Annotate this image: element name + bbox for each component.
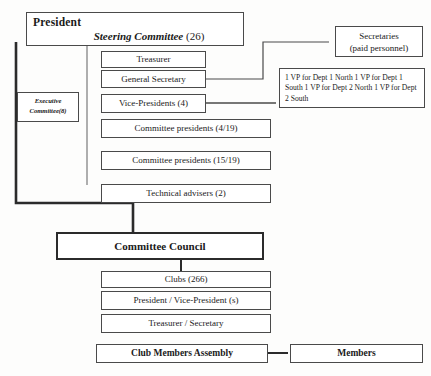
general-secretary-label: General Secretary	[121, 74, 186, 84]
president-label: President	[33, 16, 237, 29]
clubs-label: Clubs (266)	[165, 274, 208, 284]
club-treasurer-secretary-label: Treasurer / Secretary	[148, 318, 223, 328]
technical-advisers-box: Technical advisers (2)	[101, 184, 271, 203]
steering-committee-title: Steering Committee	[94, 30, 184, 42]
executive-committee-line2: Committee(8)	[30, 107, 67, 114]
steering-committee-label: Steering Committee (26)	[33, 30, 237, 43]
committee-presidents-4-19-label: Committee presidents (4/19)	[135, 123, 238, 133]
executive-committee-box: Executive Committee(8)	[17, 92, 79, 122]
treasurer-box: Treasurer	[101, 51, 206, 68]
secretaries-line2: (paid personnel)	[350, 43, 409, 53]
treasurer-label: Treasurer	[136, 54, 170, 64]
vice-presidents-label: Vice-Presidents (4)	[119, 98, 188, 108]
club-treasurer-secretary-box: Treasurer / Secretary	[101, 314, 271, 333]
committee-presidents-15-19-box: Committee presidents (15/19)	[101, 151, 271, 170]
vp-departments-text: 1 VP for Dept 1 North 1 VP for Dept 1 So…	[285, 73, 417, 103]
club-president-vicepresident-box: President / Vice-President (s)	[101, 291, 271, 310]
secretaries-line1: Secretaries	[359, 31, 398, 41]
vp-departments-box: 1 VP for Dept 1 North 1 VP for Dept 1 So…	[279, 68, 425, 108]
steering-committee-count: (26)	[186, 30, 204, 42]
members-label: Members	[337, 348, 376, 359]
committee-council-label: Committee Council	[114, 240, 205, 253]
committee-presidents-4-19-box: Committee presidents (4/19)	[101, 119, 271, 138]
committee-presidents-15-19-label: Committee presidents (15/19)	[132, 155, 239, 165]
members-box: Members	[290, 344, 423, 363]
technical-advisers-label: Technical advisers (2)	[146, 188, 225, 198]
general-secretary-box: General Secretary	[101, 70, 206, 88]
clubs-box: Clubs (266)	[101, 271, 271, 288]
club-president-vicepresident-label: President / Vice-President (s)	[133, 295, 238, 305]
club-members-assembly-box: Club Members Assembly	[96, 344, 268, 363]
club-members-assembly-label: Club Members Assembly	[131, 348, 233, 359]
org-chart-diagram: President Steering Committee (26) Execut…	[0, 0, 431, 376]
committee-council-box: Committee Council	[56, 232, 264, 260]
executive-committee-line1: Executive	[35, 97, 62, 104]
president-steering-committee-box: President Steering Committee (26)	[26, 12, 244, 46]
vice-presidents-box: Vice-Presidents (4)	[101, 94, 206, 113]
secretaries-box: Secretaries (paid personnel)	[335, 26, 423, 57]
